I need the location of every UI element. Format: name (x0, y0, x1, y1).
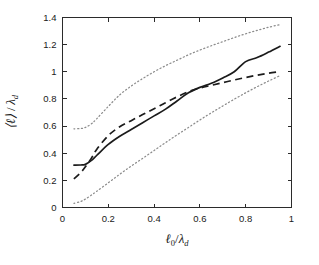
y-title-denominator-subscript: d (10, 94, 20, 99)
x-title-denominator-subscript: d (184, 238, 189, 248)
data-series-group (74, 25, 280, 204)
y-tick-label: 0.8 (43, 93, 56, 104)
x-tick-label: 0 (60, 213, 65, 224)
figure-container: 00.20.40.60.81 00.20.40.60.811.21.4 ℓ0/λ… (0, 0, 319, 265)
y-axis-tick-labels: 00.20.40.60.811.21.4 (43, 12, 56, 213)
x-tick-label: 0.6 (193, 213, 206, 224)
y-tick-label: 1 (51, 66, 56, 77)
y-tick-label: 1.2 (43, 39, 56, 50)
y-tick-label: 0.2 (43, 175, 56, 186)
y-tick-label: 0 (51, 202, 56, 213)
y-axis-title: ⟨ℓ⟩ / λd (3, 94, 20, 129)
svg-text:⟨ℓ⟩ / λd: ⟨ℓ⟩ / λd (3, 94, 20, 129)
x-tick-label: 0.2 (102, 213, 115, 224)
x-axis-tick-labels: 00.20.40.60.81 (60, 213, 294, 224)
x-tick-label: 1 (289, 213, 294, 224)
x-axis-ticks (63, 18, 292, 208)
plot-frame (63, 18, 292, 208)
x-tick-label: 0.4 (147, 213, 160, 224)
svg-text:ℓ0/λd: ℓ0/λd (165, 231, 189, 248)
y-tick-label: 1.4 (43, 12, 56, 23)
y-title-symbol: ⟨ℓ⟩ (3, 114, 18, 129)
series-model (74, 72, 280, 179)
y-axis-ticks (63, 18, 292, 208)
chart-canvas: 00.20.40.60.81 00.20.40.60.811.21.4 ℓ0/λ… (0, 0, 319, 265)
y-tick-label: 0.4 (43, 148, 56, 159)
x-tick-label: 0.8 (239, 213, 252, 224)
y-tick-label: 0.6 (43, 120, 56, 131)
series-mean (74, 46, 280, 165)
x-axis-title: ℓ0/λd (165, 231, 189, 248)
